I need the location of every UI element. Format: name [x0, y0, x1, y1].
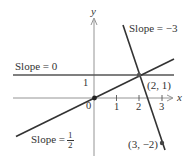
slope-neg3-label: Slope = −3 — [129, 23, 177, 34]
slope-zero-label: Slope = 0 — [15, 61, 57, 72]
slope-half-label: Slope =12 — [31, 131, 74, 150]
slope-half-fraction: 12 — [67, 131, 74, 150]
point-3-neg2-label: (3, −2) — [128, 139, 158, 150]
x-axis-label: x — [177, 92, 182, 103]
point-2-1 — [137, 73, 141, 77]
point-2-1-label: (2, 1) — [147, 80, 171, 91]
y-axis-label: y — [91, 6, 96, 17]
slope-half-prefix: Slope = — [31, 133, 65, 145]
y-tick-label-1: 1 — [83, 78, 88, 89]
fraction-denominator: 2 — [68, 141, 73, 150]
x-tick-label-1: 1 — [114, 102, 119, 113]
x-tick-label-3: 3 — [159, 102, 164, 113]
origin-label: 0 — [86, 101, 91, 112]
x-tick-label-2: 2 — [136, 102, 141, 113]
point-3-neg2 — [160, 141, 164, 145]
point-origin — [92, 96, 97, 101]
